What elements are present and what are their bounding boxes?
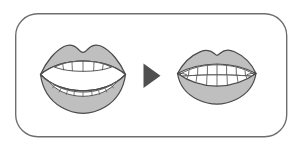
mouth-transition-figure: Mouth open to mouth closed transition Tw… [0, 0, 302, 146]
figure-canvas: Mouth open to mouth closed transition Tw… [0, 0, 302, 146]
